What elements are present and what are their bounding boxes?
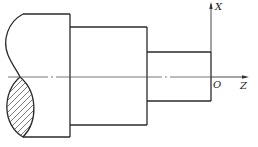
z-axis-label: Z <box>239 80 248 91</box>
x-axis-arrow-icon <box>209 2 212 9</box>
origin-label: O <box>213 79 221 90</box>
section-small-diameter <box>147 52 211 101</box>
section-middle-diameter <box>70 27 147 125</box>
section-large-diameter <box>23 14 70 137</box>
break-lens-outline <box>7 77 34 137</box>
x-axis: X <box>209 1 223 52</box>
break-section <box>0 14 40 147</box>
x-axis-label: X <box>214 1 223 12</box>
shaft-diagram: X Z O <box>0 0 258 147</box>
hatch-pattern <box>0 50 40 147</box>
z-axis-arrow-icon <box>242 75 249 78</box>
break-curve-upper <box>6 14 23 77</box>
